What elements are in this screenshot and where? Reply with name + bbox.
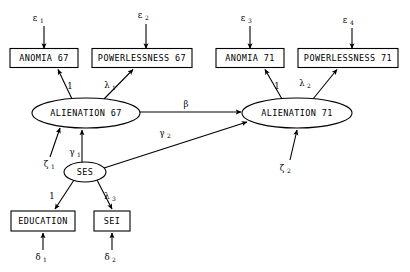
coefficient-subscript-gamma1: 1 bbox=[77, 151, 81, 158]
error-subscript-zeta2: 2 bbox=[287, 167, 291, 174]
observed-variable-education[interactable]: EDUCATION bbox=[11, 211, 75, 231]
diagram-canvas: ANOMIA 67 POWERLESSNESS 67 ANOMIA 71 POW… bbox=[0, 0, 410, 272]
observed-variable-powerlessness71[interactable]: POWERLESSNESS 71 bbox=[298, 49, 398, 68]
coefficient-load-sei: λ 3 bbox=[104, 191, 116, 202]
error-term-epsilon1: ε 1 bbox=[33, 13, 44, 24]
coefficient-load-power67: λ 1 bbox=[104, 80, 116, 91]
coefficient-symbol-load-anomia71: 1 bbox=[274, 81, 279, 91]
error-term-delta1: δ 1 bbox=[35, 252, 46, 263]
coefficient-subscript-load-power71: 2 bbox=[307, 82, 311, 89]
disturbance-arrow-zeta2 bbox=[290, 130, 297, 160]
observed-label-anomia71: ANOMIA 71 bbox=[225, 53, 275, 63]
disturbance-arrow-zeta1 bbox=[50, 128, 60, 157]
coefficient-beta: β bbox=[184, 99, 189, 109]
error-subscript-epsilon4: 4 bbox=[350, 19, 354, 26]
coefficient-load-education: 1 bbox=[49, 191, 54, 201]
error-term-epsilon4: ε 4 bbox=[343, 15, 354, 26]
latent-label-alienation71: ALIENATION 71 bbox=[261, 108, 333, 118]
observed-label-sei: SEI bbox=[104, 216, 121, 226]
error-term-zeta2: ζ 2 bbox=[280, 163, 291, 174]
error-subscript-delta2: 2 bbox=[112, 256, 116, 263]
coefficient-symbol-gamma2: γ bbox=[159, 128, 164, 138]
coefficient-symbol-load-power71: λ bbox=[299, 78, 305, 88]
loading-arrow-alienation71-powerlessness71 bbox=[313, 70, 337, 100]
coefficient-subscript-load-sei: 3 bbox=[112, 195, 116, 202]
coefficient-symbol-load-sei: λ bbox=[104, 191, 110, 201]
structural-arrow-gamma2 bbox=[104, 122, 247, 168]
latent-variable-alienation71[interactable]: ALIENATION 71 bbox=[242, 98, 352, 128]
observed-variable-sei[interactable]: SEI bbox=[94, 211, 130, 231]
coefficient-gamma1: γ 1 bbox=[69, 147, 80, 158]
latent-label-ses: SES bbox=[77, 167, 94, 177]
error-subscript-delta1: 1 bbox=[43, 256, 47, 263]
error-term-epsilon3: ε 3 bbox=[241, 13, 252, 24]
observed-variable-anomia71[interactable]: ANOMIA 71 bbox=[216, 49, 284, 68]
observed-label-anomia67: ANOMIA 67 bbox=[19, 53, 69, 63]
coefficient-symbol-load-anomia67: 1 bbox=[67, 81, 72, 91]
error-subscript-epsilon2: 2 bbox=[145, 14, 149, 21]
observed-label-powerlessness67: POWERLESSNESS 67 bbox=[98, 53, 186, 63]
observed-variable-anomia67[interactable]: ANOMIA 67 bbox=[10, 49, 78, 68]
error-subscript-zeta1: 1 bbox=[51, 163, 55, 170]
error-term-zeta1: ζ 1 bbox=[44, 159, 55, 170]
coefficient-subscript-gamma2: 2 bbox=[167, 132, 171, 139]
coefficient-load-anomia71: 1 bbox=[274, 81, 279, 91]
latent-variable-alienation67[interactable]: ALIENATION 67 bbox=[32, 98, 140, 128]
coefficient-load-power71: λ 2 bbox=[299, 78, 311, 89]
error-symbol-epsilon1: ε bbox=[33, 13, 38, 23]
coefficient-symbol-gamma1: γ bbox=[69, 147, 74, 157]
error-term-epsilon2: ε 2 bbox=[138, 10, 149, 21]
error-symbol-epsilon2: ε bbox=[138, 10, 143, 20]
error-symbol-epsilon3: ε bbox=[241, 13, 246, 23]
error-subscript-epsilon3: 3 bbox=[248, 17, 252, 24]
coefficient-symbol-load-education: 1 bbox=[49, 191, 54, 201]
coefficient-subscript-load-power67: 1 bbox=[112, 84, 116, 91]
observed-label-education: EDUCATION bbox=[18, 216, 68, 226]
loading-arrow-ses-education bbox=[55, 180, 74, 209]
coefficient-load-anomia67: 1 bbox=[67, 81, 72, 91]
error-symbol-delta2: δ bbox=[104, 252, 109, 262]
sem-path-diagram-figure: ANOMIA 67 POWERLESSNESS 67 ANOMIA 71 POW… bbox=[0, 0, 410, 272]
error-symbol-epsilon4: ε bbox=[343, 15, 348, 25]
coefficient-gamma2: γ 2 bbox=[159, 128, 171, 139]
observed-variable-powerlessness67[interactable]: POWERLESSNESS 67 bbox=[92, 49, 192, 68]
latent-label-alienation67: ALIENATION 67 bbox=[50, 108, 122, 118]
observed-label-powerlessness71: POWERLESSNESS 71 bbox=[304, 53, 392, 63]
error-term-delta2: δ 2 bbox=[104, 252, 116, 263]
coefficient-symbol-load-power67: λ bbox=[104, 80, 110, 90]
error-symbol-delta1: δ bbox=[35, 252, 40, 262]
coefficient-symbol-beta: β bbox=[184, 99, 189, 109]
error-subscript-epsilon1: 1 bbox=[40, 17, 44, 24]
latent-variable-ses[interactable]: SES bbox=[64, 162, 106, 182]
error-symbol-zeta1: ζ bbox=[44, 159, 49, 169]
error-symbol-zeta2: ζ bbox=[280, 163, 285, 173]
